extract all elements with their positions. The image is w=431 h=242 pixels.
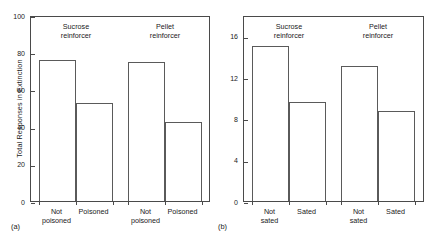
y-tick-label: 100 (13, 13, 25, 21)
y-tick-label: 4 (234, 157, 238, 165)
x-axis-label: Poisoned (64, 208, 124, 217)
bar (128, 62, 165, 202)
bar (378, 111, 415, 201)
bar (289, 102, 326, 201)
group-header: Sucrosereinforcer (31, 23, 121, 40)
x-axis-label-line1: Sated (277, 208, 337, 217)
y-tick-mark (244, 120, 248, 121)
x-axis-label-line1: Poisoned (153, 208, 213, 217)
group-header: Sucrosereinforcer (244, 23, 334, 40)
y-tick-mark (31, 91, 35, 92)
panel-letter-a: (a) (11, 222, 20, 231)
y-tick-mark (31, 166, 35, 167)
x-axis-label-line2: sated (240, 217, 300, 226)
bar (252, 46, 289, 201)
y-tick-mark (31, 129, 35, 130)
x-axis-label-line1: Poisoned (64, 208, 124, 217)
x-tick-mark (289, 201, 290, 205)
plot-area-a: 020406080100SucrosereinforcerPelletreinf… (30, 16, 210, 202)
y-tick-mark (244, 79, 248, 80)
x-tick-mark (378, 201, 379, 205)
y-tick-mark (31, 54, 35, 55)
plot-area-b: 0481216SucrosereinforcerPelletreinforcer (243, 16, 424, 202)
y-tick-label: 20 (17, 161, 25, 169)
x-tick-mark (39, 201, 40, 205)
group-header: Pelletreinforcer (120, 23, 210, 40)
x-tick-mark (165, 201, 166, 205)
y-tick-label: 60 (17, 87, 25, 95)
x-axis-label: Poisoned (153, 208, 213, 217)
group-header: Pelletreinforcer (333, 23, 423, 40)
x-tick-mark (113, 201, 114, 205)
y-tick-mark (31, 203, 35, 204)
x-tick-mark (202, 201, 203, 205)
x-axis-label: Sated (277, 208, 337, 217)
x-tick-mark (415, 201, 416, 205)
y-tick-label: 12 (230, 75, 238, 83)
x-axis-label-line2: poisoned (116, 217, 176, 226)
x-tick-mark (128, 201, 129, 205)
group-header-line2: reinforcer (120, 32, 210, 41)
x-axis-label-line2: poisoned (27, 217, 87, 226)
y-tick-label: 40 (17, 124, 25, 132)
bar (165, 122, 202, 201)
y-tick-label: 80 (17, 50, 25, 58)
y-tick-label: 0 (21, 199, 25, 207)
y-tick-mark (244, 162, 248, 163)
bar (341, 66, 378, 201)
x-tick-mark (76, 201, 77, 205)
group-header-line2: reinforcer (333, 32, 423, 41)
panel-letter-b: (b) (218, 222, 227, 231)
y-tick-label: 8 (234, 116, 238, 124)
x-axis-label-line1: Sated (366, 208, 426, 217)
bar (39, 60, 76, 201)
y-tick-label: 0 (234, 199, 238, 207)
panel-b: 0481216SucrosereinforcerPelletreinforcer… (215, 0, 431, 242)
x-tick-mark (341, 201, 342, 205)
group-header-line2: reinforcer (244, 32, 334, 41)
y-tick-mark (244, 203, 248, 204)
x-tick-mark (326, 201, 327, 205)
y-tick-mark (31, 17, 35, 18)
x-tick-mark (252, 201, 253, 205)
x-axis-label-line2: sated (329, 217, 389, 226)
panel-a: Total Responses in Extinction 0204060801… (0, 0, 215, 242)
y-tick-label: 16 (230, 33, 238, 41)
figure-container: Total Responses in Extinction 0204060801… (0, 0, 431, 242)
bar (76, 103, 113, 201)
group-header-line2: reinforcer (31, 32, 121, 41)
x-axis-label: Sated (366, 208, 426, 217)
